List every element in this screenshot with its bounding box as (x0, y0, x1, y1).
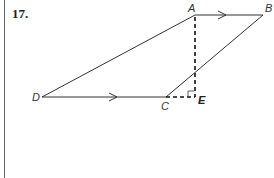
segment-BC (166, 15, 263, 97)
right-angle-icon (188, 91, 194, 97)
trapezoid-diagram: A B D C E (0, 0, 274, 178)
label-E: E (198, 94, 206, 106)
label-C: C (161, 100, 169, 112)
label-B: B (265, 2, 272, 14)
segment-DA (42, 15, 195, 97)
label-D: D (32, 91, 40, 103)
label-A: A (187, 2, 195, 14)
problem-frame: 17. A B D C E (0, 0, 274, 178)
